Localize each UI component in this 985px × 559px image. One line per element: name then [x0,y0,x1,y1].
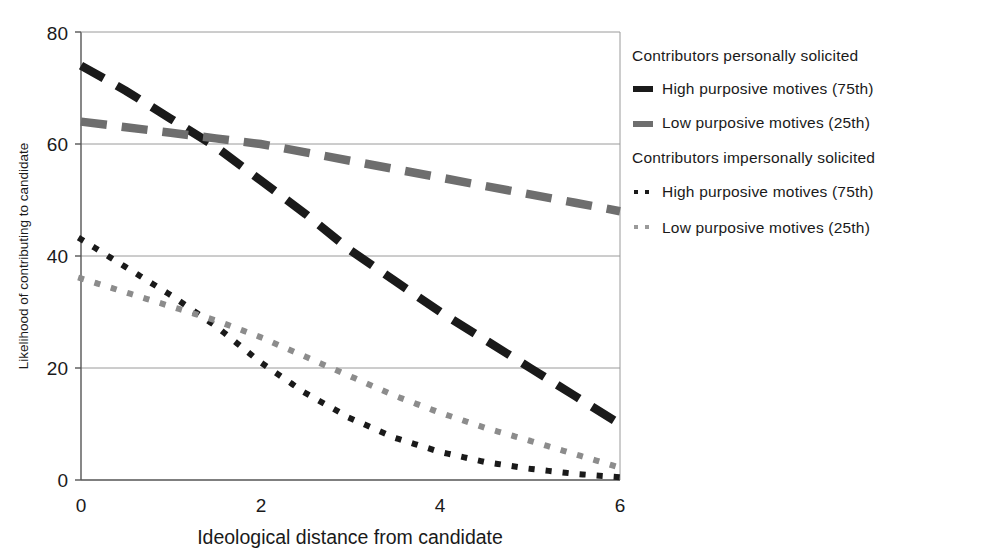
legend-label-personal-low: Low purposive motives (25th) [662,115,870,131]
legend-label-impersonal-low: Low purposive motives (25th) [662,220,870,236]
dots-gray-icon [632,221,656,233]
y-tick-labels: 0 20 40 60 80 [47,23,68,491]
legend-item-impersonal-low[interactable]: Low purposive motives (25th) [632,220,972,236]
legend-group-title-personally: Contributors personally solicited [632,48,972,64]
legend-item-personal-high[interactable]: High purposive motives (75th) [632,81,972,97]
legend-group-title-impersonally: Contributors impersonally solicited [632,150,972,166]
legend-item-impersonal-high[interactable]: High purposive motives (75th) [632,184,972,200]
chart-legend: Contributors personally solicited High p… [632,48,972,235]
series-layer [81,66,620,478]
legend-label-personal-high: High purposive motives (75th) [662,81,874,97]
y-tick-label-40: 40 [47,246,68,267]
y-tick-label-20: 20 [47,358,68,379]
x-tick-label-6: 6 [615,495,626,516]
x-tick-label-2: 2 [256,495,267,516]
legend-group-impersonally: Contributors impersonally solicited High… [632,150,972,236]
series-line-2 [81,239,620,477]
y-tick-label-60: 60 [47,134,68,155]
dash-gray-icon [632,117,656,129]
dash-black-icon [632,82,656,94]
legend-item-personal-low[interactable]: Low purposive motives (25th) [632,115,972,131]
y-tick-marks [75,32,81,480]
y-tick-label-80: 80 [47,23,68,44]
y-axis-title: Likelihood of contributing to candidate [16,143,31,370]
legend-label-impersonal-high: High purposive motives (75th) [662,184,874,200]
x-axis-title: Ideological distance from candidate [197,526,503,548]
gridlines [81,144,620,368]
series-line-1 [81,122,620,212]
x-tick-labels: 0 2 4 6 [76,495,626,516]
legend-group-personally: Contributors personally solicited High p… [632,48,972,131]
x-tick-label-4: 4 [435,495,446,516]
chart-figure: 0 20 40 60 80 0 2 4 6 Ideological distan… [0,0,985,559]
y-tick-label-0: 0 [57,470,68,491]
x-tick-label-0: 0 [76,495,87,516]
dots-black-icon [632,186,656,198]
series-line-0 [81,66,620,424]
